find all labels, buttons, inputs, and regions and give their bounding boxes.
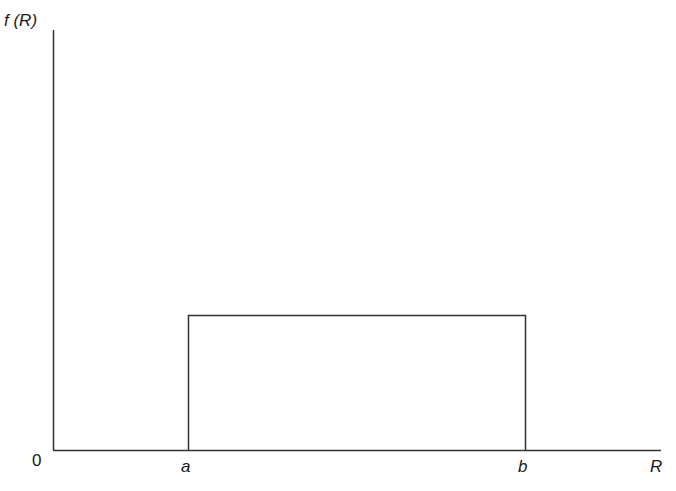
uniform-distribution-chart: f (R) 0 a b R — [0, 0, 676, 491]
y-axis-label: f (R) — [4, 12, 37, 29]
x-tick-b: b — [518, 458, 527, 475]
x-axis-label: R — [650, 458, 662, 475]
chart-plot-area — [0, 0, 676, 491]
density-rectangle — [189, 316, 526, 451]
x-tick-a: a — [181, 458, 190, 475]
origin-label: 0 — [32, 452, 41, 469]
